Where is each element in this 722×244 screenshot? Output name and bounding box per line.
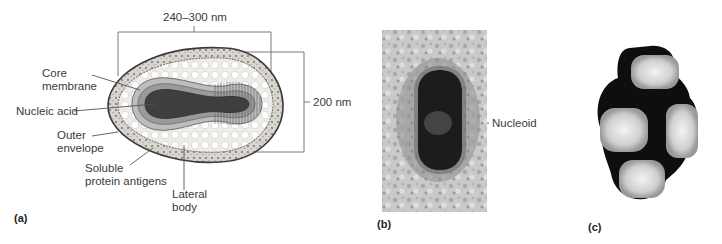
label-lateral-body-line2: body	[172, 201, 197, 214]
dimension-height-label: 200 nm	[313, 96, 351, 109]
label-lateral-body-line1: Lateral	[172, 188, 207, 201]
panel-label-a: (a)	[14, 212, 27, 224]
label-core-membrane-line1: Core	[42, 67, 67, 80]
label-soluble-antigens-line2: protein antigens	[85, 175, 167, 188]
label-nucleoid: Nucleoid	[492, 117, 537, 130]
panel-label-b: (b)	[377, 218, 391, 230]
label-outer-envelope-line1: Outer	[57, 129, 86, 142]
dimension-width-label: 240–300 nm	[163, 11, 227, 24]
label-nucleic-acid: Nucleic acid	[16, 105, 78, 118]
micrograph-b	[382, 30, 487, 212]
label-soluble-antigens-line1: Soluble	[85, 162, 123, 175]
micrograph-c	[598, 46, 698, 199]
virion-diagram	[108, 48, 283, 163]
figure-canvas	[0, 0, 722, 244]
label-outer-envelope-line2: envelope	[57, 142, 104, 155]
panel-label-c: (c)	[588, 221, 601, 233]
label-core-membrane-line2: membrane	[42, 80, 97, 93]
